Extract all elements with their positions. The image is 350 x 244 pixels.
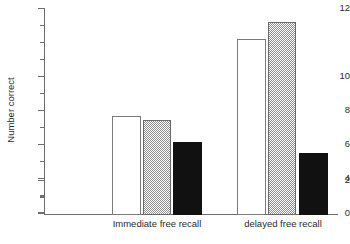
y-tick-label-8: 8 <box>318 105 350 115</box>
y-tick-label-6: 6 <box>318 139 350 149</box>
bar-immediate-stippled <box>143 120 171 215</box>
y-tick-label-10: 10 <box>318 71 350 81</box>
bar-chart: Number correct 12 10 8 6 4 0 <box>0 0 350 244</box>
bar-delayed-open <box>237 39 266 215</box>
y-tick-1 <box>40 197 45 198</box>
y-tick-8 <box>38 110 45 111</box>
y-tick-0-real <box>38 212 45 213</box>
y-tick-11b <box>40 25 45 26</box>
y-tick-10 <box>38 76 45 77</box>
bar-delayed-stippled <box>268 22 296 215</box>
y-tick-label-12: 12 <box>318 3 350 13</box>
y-axis-title-text: Number correct <box>5 77 16 142</box>
y-tick-11 <box>40 42 45 43</box>
y-tick-10b <box>40 59 45 60</box>
y-tick-9 <box>40 93 45 94</box>
y-axis-line <box>44 8 45 215</box>
x-group-label-immediate: Immediate free recall <box>97 219 217 229</box>
x-group-label-delayed: delayed free recall <box>223 219 343 229</box>
y-axis-title: Number correct <box>3 0 17 225</box>
y-tick-7 <box>40 127 45 128</box>
y-tick-5 <box>40 161 45 162</box>
y-tick-6 <box>38 144 45 145</box>
y-tick-12 <box>38 8 45 9</box>
y-tick-2 <box>38 180 45 181</box>
bar-immediate-filled <box>173 142 202 216</box>
bar-immediate-open <box>112 116 141 215</box>
bar-delayed-filled <box>299 153 328 216</box>
